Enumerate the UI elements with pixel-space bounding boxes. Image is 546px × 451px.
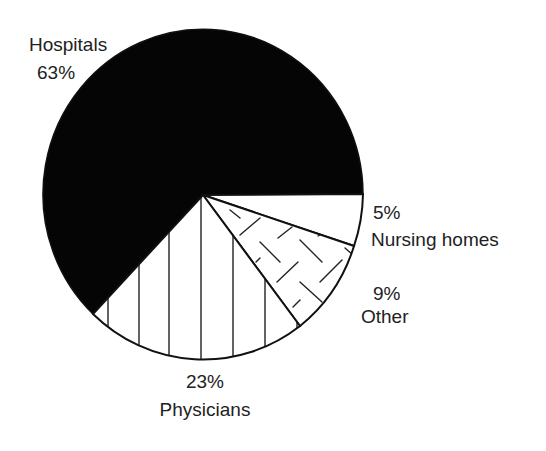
label-other-name: Other [361,306,409,328]
label-hospitals-pct: 63% [37,62,75,84]
label-nursing-pct: 5% [373,202,400,224]
label-physicians-pct: 23% [155,371,255,393]
pie-chart [0,0,546,451]
label-other-pct: 9% [373,283,400,305]
label-hospitals-name: Hospitals [29,34,107,56]
label-nursing-name: Nursing homes [371,229,499,251]
label-physicians-name: Physicians [135,399,275,421]
